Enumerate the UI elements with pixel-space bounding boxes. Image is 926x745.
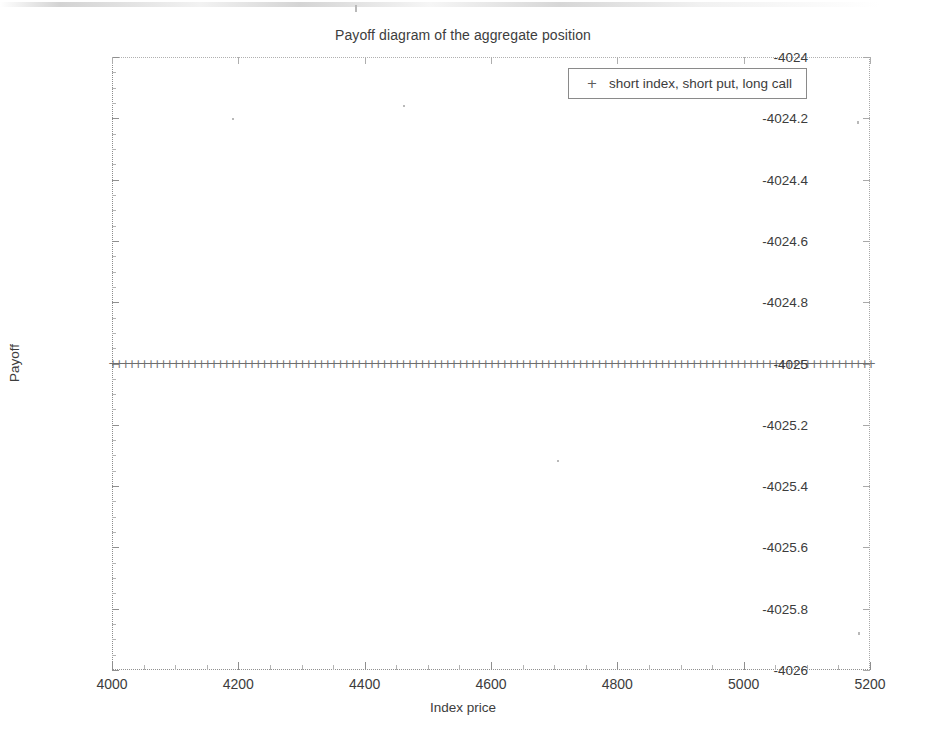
y-tick-right	[863, 118, 870, 119]
x-tick-label: 4400	[349, 676, 380, 692]
x-tick-label: 4800	[602, 676, 633, 692]
y-minor-tick	[112, 379, 116, 380]
y-tick-right	[863, 425, 870, 426]
y-minor-tick	[112, 532, 116, 533]
x-minor-tick	[838, 665, 839, 670]
legend-entry-label: short index, short put, long call	[609, 76, 796, 91]
y-minor-tick	[112, 455, 116, 456]
x-tick-label: 4600	[475, 676, 506, 692]
x-tick-label: 5200	[854, 676, 885, 692]
x-tick	[870, 662, 871, 670]
data-point-marker: +	[834, 359, 843, 370]
y-tick-right	[863, 180, 870, 181]
legend-plus-icon: +	[575, 76, 609, 91]
y-minor-tick	[112, 501, 116, 502]
y-minor-tick	[112, 256, 116, 257]
y-minor-tick	[112, 394, 116, 395]
y-tick-label: -4024.6	[0, 233, 808, 248]
y-tick-right	[863, 57, 870, 58]
y-minor-tick	[112, 563, 116, 564]
y-tick-right	[863, 302, 870, 303]
y-minor-tick	[112, 593, 116, 594]
data-point-marker: +	[847, 359, 856, 370]
y-minor-tick	[112, 88, 116, 89]
y-minor-tick	[112, 134, 116, 135]
data-point-marker: +	[841, 359, 850, 370]
x-tick-top	[870, 57, 871, 64]
y-minor-tick	[112, 272, 116, 273]
y-tick-label: -4025.4	[0, 479, 808, 494]
y-tick-label: -4025.8	[0, 601, 808, 616]
y-minor-tick	[112, 287, 116, 288]
x-tick-label: 4000	[96, 676, 127, 692]
chart-legend[interactable]: + short index, short put, long call	[568, 68, 807, 99]
data-point-marker: +	[828, 359, 837, 370]
y-minor-tick	[112, 348, 116, 349]
y-tick-label: -4024.4	[0, 172, 808, 187]
y-minor-tick	[112, 624, 116, 625]
y-tick-right	[863, 364, 870, 365]
y-tick-label: -4025.6	[0, 540, 808, 555]
chart-title: Payoff diagram of the aggregate position	[0, 27, 926, 43]
data-point-marker: +	[853, 359, 862, 370]
y-minor-tick	[112, 409, 116, 410]
y-minor-tick	[112, 639, 116, 640]
scan-artifact	[0, 2, 926, 7]
y-tick-label: -4025	[0, 356, 808, 371]
y-tick-right	[863, 486, 870, 487]
y-minor-tick	[112, 103, 116, 104]
y-tick-label: -4025.2	[0, 417, 808, 432]
x-tick-label: 5000	[728, 676, 759, 692]
x-tick-label: 4200	[223, 676, 254, 692]
y-tick-label: -4024.8	[0, 295, 808, 310]
y-minor-tick	[112, 471, 116, 472]
y-minor-tick	[112, 149, 116, 150]
y-minor-tick	[112, 164, 116, 165]
y-minor-tick	[112, 440, 116, 441]
y-minor-tick	[112, 655, 116, 656]
data-point-marker: +	[815, 359, 824, 370]
y-minor-tick	[112, 318, 116, 319]
y-tick-label: -4024.2	[0, 111, 808, 126]
y-tick-right	[863, 670, 870, 671]
y-tick-right	[863, 609, 870, 610]
y-tick-label: -4024	[0, 50, 808, 65]
scan-speck	[355, 5, 357, 12]
chart-figure: Payoff diagram of the aggregate position…	[0, 0, 926, 745]
y-minor-tick	[112, 72, 116, 73]
y-minor-tick	[112, 195, 116, 196]
data-point-marker: +	[809, 359, 818, 370]
x-axis-title: Index price	[0, 700, 926, 715]
y-tick-right	[863, 547, 870, 548]
y-minor-tick	[112, 517, 116, 518]
y-minor-tick	[112, 578, 116, 579]
y-minor-tick	[112, 210, 116, 211]
data-point-marker: +	[822, 359, 831, 370]
y-tick-right	[863, 241, 870, 242]
y-minor-tick	[112, 333, 116, 334]
y-minor-tick	[112, 226, 116, 227]
